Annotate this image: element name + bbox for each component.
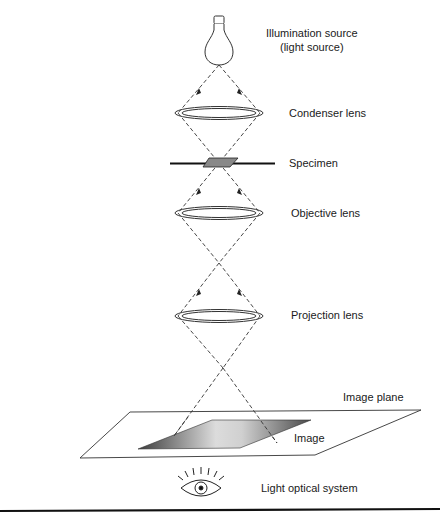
- light-bulb-icon: [205, 16, 233, 65]
- light-rays: [174, 65, 277, 443]
- illumination-source-sublabel: (light source): [280, 41, 344, 53]
- projection-lens-label: Projection lens: [291, 309, 364, 321]
- eye-icon: [178, 467, 224, 496]
- condenser-lens-shape: [175, 107, 263, 120]
- objective-lens-label: Objective lens: [291, 207, 361, 219]
- specimen-shape: [170, 158, 275, 167]
- image-label: Image: [294, 432, 325, 444]
- condenser-lens-label: Condenser lens: [289, 107, 367, 119]
- specimen-label: Specimen: [289, 157, 338, 169]
- light-optical-system-label: Light optical system: [261, 482, 358, 494]
- objective-lens-shape: [175, 207, 263, 220]
- projection-lens-shape: [175, 310, 263, 323]
- image-shape: [138, 420, 311, 449]
- bottom-divider: [0, 509, 440, 511]
- light-optical-system-diagram: Illumination source (light source) Conde…: [0, 0, 440, 521]
- image-plane-label: Image plane: [343, 391, 404, 403]
- illumination-source-label: Illumination source: [266, 27, 358, 39]
